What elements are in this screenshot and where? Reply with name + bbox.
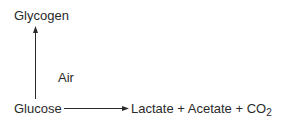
arrows-layer (0, 0, 297, 123)
arrow-glucose-to-glycogen (33, 26, 38, 99)
arrow-glucose-to-products (64, 106, 129, 111)
